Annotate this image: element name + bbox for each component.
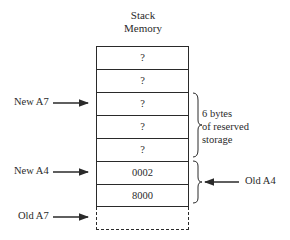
old-a7-label: Old A7 xyxy=(18,210,49,221)
old-a4-brace-icon xyxy=(193,161,202,203)
reserved-brace-icon xyxy=(193,93,202,157)
reserved-note-line-3: storage xyxy=(202,133,249,146)
reserved-note-line-1: 6 bytes xyxy=(202,107,249,120)
new-a7-label: New A7 xyxy=(14,96,49,107)
old-a4-label: Old A4 xyxy=(245,175,276,186)
reserved-storage-note: 6 bytes of reserved storage xyxy=(202,107,249,146)
reserved-note-line-2: of reserved xyxy=(202,120,249,133)
new-a4-label: New A4 xyxy=(14,165,49,176)
